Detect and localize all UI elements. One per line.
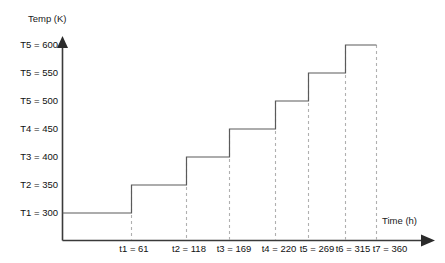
x-tick-label: t2 = 118 [172, 243, 206, 254]
y-tick-label: T4 = 450 [20, 123, 58, 134]
chart-canvas: Temp (K) Time (h) T5 = 600 T5 = 550 T5 =… [0, 0, 445, 263]
step-data-line [63, 45, 377, 213]
y-tick-label: T3 = 400 [20, 151, 58, 162]
y-tick-label: T5 = 500 [20, 95, 58, 106]
x-tick-labels: t1 = 61 t2 = 118 t3 = 169 t4 = 220 t5 = … [119, 243, 407, 254]
x-axis-title: Time (h) [382, 215, 417, 226]
x-tick-label: t1 = 61 [119, 243, 148, 254]
y-tick-label: T5 = 600 [20, 39, 58, 50]
x-tick-label: t3 = 169 [217, 243, 252, 254]
step-drop-lines [132, 45, 377, 240]
y-axis-arrowhead [57, 36, 68, 48]
y-tick-label: T1 = 300 [20, 207, 58, 218]
x-axis-arrowhead [421, 235, 435, 247]
y-axis-title: Temp (K) [28, 13, 67, 24]
y-axis [57, 36, 68, 241]
y-tick-labels: T5 = 600 T5 = 550 T5 = 500 T4 = 450 T3 =… [20, 39, 58, 218]
x-tick-label: t7 = 360 [373, 243, 408, 254]
x-tick-label: t6 = 315 [336, 243, 371, 254]
x-tick-label: t4 = 220 [262, 243, 297, 254]
x-tick-label: t5 = 269 [300, 243, 335, 254]
step-chart: Temp (K) Time (h) T5 = 600 T5 = 550 T5 =… [0, 0, 445, 263]
y-tick-label: T5 = 550 [20, 67, 58, 78]
y-tick-label: T2 = 350 [20, 179, 58, 190]
